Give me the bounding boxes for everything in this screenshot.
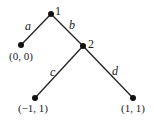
edge-c-label: c [50,65,56,79]
payoff-c: (−1, 1) [18,102,48,115]
node-1-label: 1 [55,4,61,18]
leaf-node-a [18,42,24,48]
edge-c [35,46,83,98]
game-tree-diagram: 1 2 a b c d (0, 0) (−1, 1) (1, 1) [0,0,154,121]
leaf-node-c [32,95,38,101]
leaf-node-d [130,95,136,101]
edge-d-label: d [112,64,119,78]
node-2-label: 2 [88,37,94,51]
node-1 [48,11,54,17]
node-2 [80,43,86,49]
edge-a-label: a [25,19,31,33]
edge-d [83,46,133,98]
payoff-d: (1, 1) [121,102,145,115]
edge-b-label: b [69,18,75,32]
payoff-a: (0, 0) [9,50,33,63]
edge-b [51,14,83,46]
